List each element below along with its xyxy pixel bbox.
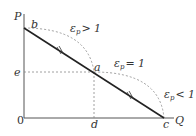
unit-label: εp= 1	[114, 57, 145, 71]
point-a-label: a	[94, 61, 101, 74]
point-b-label: b	[31, 18, 38, 31]
inelastic-label: εp< 1	[164, 88, 195, 102]
y-axis-label: P	[13, 10, 22, 23]
elastic-label: εp> 1	[70, 22, 101, 36]
origin-label: 0	[17, 114, 24, 127]
demand-diagram: P Q 0 b a c d e εp> 1 εp= 1 εp< 1	[0, 0, 196, 136]
point-e-label: e	[14, 66, 21, 79]
point-d-label: d	[91, 118, 98, 131]
x-axis-label: Q	[175, 114, 184, 127]
point-c-label: c	[163, 118, 169, 131]
